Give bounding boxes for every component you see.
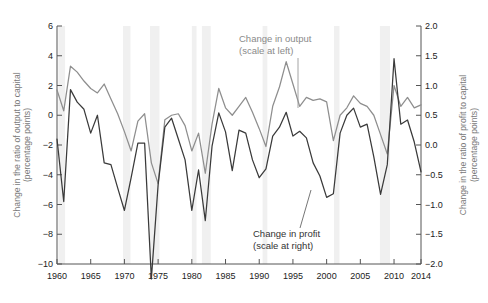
left-tick-label: 0: [48, 110, 53, 120]
annotation-profit-line1: Change in profit: [253, 228, 320, 239]
left-tick-label: −6: [43, 200, 53, 210]
right-tick-label: 1.0: [425, 81, 438, 91]
bottom-tick-label: 2005: [350, 271, 370, 281]
axis-titles-group: Change in the ratio of output to capital…: [12, 72, 479, 217]
right-tick-label: 0.0: [425, 140, 438, 150]
annotation-profit-leader-line: [300, 190, 311, 228]
data-series-group: [57, 59, 421, 279]
left-axis-title-line2: (percentage points): [22, 108, 32, 182]
bottom-tick-label: 1965: [81, 271, 101, 281]
annotations-group: Change in output(scale at left)Change in…: [239, 33, 320, 251]
right-tick-label: −1.5: [425, 229, 443, 239]
bottom-tick-label: 1995: [283, 271, 303, 281]
right-tick-label: −2.0: [425, 259, 443, 269]
chart-svg: 6420−2−4−6−8−102.01.51.00.50.0−0.5−1.0−1…: [0, 0, 488, 303]
right-tick-label: 0.5: [425, 110, 438, 120]
bottom-tick-label: 1985: [216, 271, 236, 281]
chart-container: 6420−2−4−6−8−102.01.51.00.50.0−0.5−1.0−1…: [0, 0, 488, 303]
bottom-tick-label: 2000: [317, 271, 337, 281]
right-axis-title-line1: Change in the ratio of profit to capital: [458, 75, 468, 216]
left-tick-label: −10: [38, 259, 53, 269]
bottom-tick-label: 2010: [384, 271, 404, 281]
series-line-change-in-profit: [57, 59, 421, 279]
left-tick-label: −4: [43, 170, 53, 180]
right-tick-label: 2.0: [425, 21, 438, 31]
left-tick-label: 6: [48, 21, 53, 31]
left-tick-label: 2: [48, 81, 53, 91]
right-axis-title-line2: (percentage points): [469, 108, 479, 182]
left-tick-label: 4: [48, 51, 53, 61]
bottom-tick-label: 2014: [411, 271, 431, 281]
left-tick-label: −2: [43, 140, 53, 150]
bottom-tick-label: 1980: [182, 271, 202, 281]
right-tick-label: 1.5: [425, 51, 438, 61]
right-tick-label: −1.0: [425, 200, 443, 210]
bottom-tick-label: 1960: [47, 271, 67, 281]
bottom-tick-label: 1970: [114, 271, 134, 281]
annotation-output-line2: (scale at left): [239, 45, 293, 56]
recession-bands-group: [58, 26, 390, 264]
annotation-output-line1: Change in output: [239, 33, 312, 44]
axes-group: [57, 26, 421, 264]
left-axis-title-line1: Change in the ratio of output to capital: [12, 72, 22, 217]
left-tick-label: −8: [43, 229, 53, 239]
bottom-tick-label: 1990: [249, 271, 269, 281]
right-tick-label: −0.5: [425, 170, 443, 180]
annotation-profit-line2: (scale at right): [253, 240, 313, 251]
